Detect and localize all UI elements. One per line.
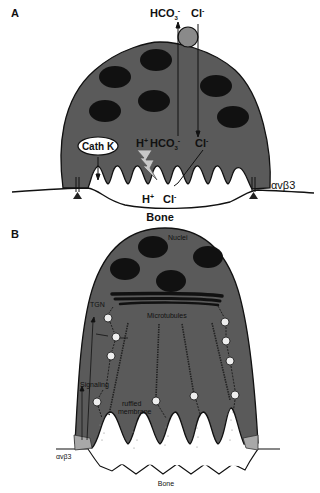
nucleus (156, 270, 186, 292)
nucleus (89, 100, 121, 122)
signaling-label: Signaling (80, 381, 109, 389)
top-bicarbonate-label: HCO (150, 7, 175, 19)
vesicle (93, 398, 101, 406)
inner-chloride-label: Cl (195, 137, 206, 149)
integrin-label-a: αvβ3 (271, 179, 295, 191)
nucleus (193, 246, 223, 268)
vesicle (107, 352, 115, 360)
osteoclast-diagram: A HCO3- Cl- (0, 0, 320, 493)
vesicle (104, 314, 112, 322)
top-chloride-label: Cl (191, 7, 202, 19)
vesicle (152, 397, 160, 405)
vesicle (222, 337, 230, 345)
svg-text:Cl-: Cl- (191, 7, 205, 19)
chloride-bicarbonate-exchanger (178, 27, 198, 47)
bone-label-a: Bone (146, 211, 174, 223)
vesicle (231, 391, 239, 399)
vesicle (221, 318, 229, 326)
panel-a-letter: A (11, 7, 19, 19)
nucleus (140, 49, 172, 71)
svg-text:Cl-: Cl- (163, 193, 177, 205)
inner-bicarbonate-label: HCO (150, 137, 175, 149)
vesicle (112, 333, 120, 341)
inner-proton-label: H (136, 137, 144, 149)
bone-label-b: Bone (158, 480, 174, 487)
trans-golgi-network (112, 293, 222, 305)
nucleus (200, 75, 232, 97)
ruffled-membrane-label-line2: membrane (118, 408, 152, 415)
panel-a: A HCO3- Cl- (11, 7, 314, 223)
nucleus (217, 106, 249, 128)
integrin-label-b: αvβ3 (56, 453, 72, 461)
vesicle (190, 392, 198, 400)
top-ion-labels: HCO3- Cl- (150, 7, 205, 21)
svg-text:HCO3-: HCO3- (150, 7, 181, 21)
cathepsin-k-label: Cath K (82, 141, 115, 152)
panel-b-letter: B (11, 228, 19, 240)
tgn-label: TGN (90, 301, 105, 308)
lacuna-proton-label: H (142, 193, 150, 205)
nucleus (138, 90, 170, 112)
nucleus (99, 66, 131, 88)
nuclei-label: Nuclei (168, 234, 188, 241)
svg-text:H+: H+ (142, 193, 154, 205)
vesicle (226, 357, 234, 365)
nucleus (138, 236, 168, 258)
panel-b: B Nuclei TGN Microtubules (11, 228, 280, 487)
ruffled-membrane-label-line1: ruffled (122, 400, 141, 407)
microtubules-label: Microtubules (147, 312, 187, 319)
nucleus (110, 258, 140, 280)
sealing-zone-right (243, 435, 258, 450)
lacuna-chloride-label: Cl (163, 193, 174, 205)
osteoclast-cell-b (75, 228, 258, 448)
